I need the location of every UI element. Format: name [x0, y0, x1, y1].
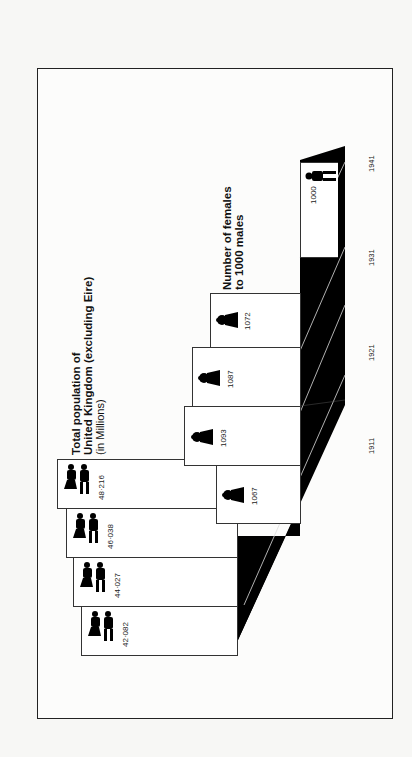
fem-value-1911: 1067 [250, 487, 259, 505]
man-icon [305, 166, 337, 186]
pop-title-line-1: Total population of [70, 277, 82, 455]
pop-value-1921: 44·027 [113, 573, 122, 598]
fem-value-1941: 1072 [243, 312, 252, 330]
pop-value-1911: 42·082 [121, 622, 130, 647]
population-title: Total population of United Kingdom (excl… [70, 277, 106, 455]
pop-title-line-3: (in Millions) [94, 277, 106, 455]
fem-value-1931: 1087 [226, 370, 235, 388]
pop-value-1931: 46·038 [106, 524, 115, 549]
fem-title-line-2: to 1000 males [233, 186, 245, 290]
man-and-woman-icon [88, 610, 118, 650]
year-label-1911: 1911 [367, 438, 376, 454]
male-ref-value: 1000 [309, 186, 318, 204]
woman-icon [198, 366, 220, 390]
woman-icon [222, 483, 244, 507]
man-and-woman-icon [80, 561, 110, 601]
females-title: Number of females to 1000 males [221, 186, 245, 290]
pop-value-1941: 48·216 [97, 475, 106, 500]
year-label-1931: 1931 [367, 249, 376, 266]
woman-icon [191, 425, 213, 449]
woman-icon [216, 308, 238, 332]
fem-value-1921: 1093 [219, 429, 228, 447]
year-label-1921: 1921 [367, 344, 376, 361]
year-label-1941: 1941 [367, 155, 376, 172]
man-and-woman-icon [64, 463, 94, 503]
man-and-woman-icon [73, 512, 103, 552]
fem-title-line-1: Number of females [221, 186, 233, 290]
pop-title-line-2: United Kingdom (excluding Eire) [82, 277, 94, 455]
